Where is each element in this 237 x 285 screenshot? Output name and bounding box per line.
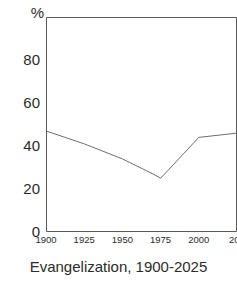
y-tick-label: 40 [4, 138, 40, 153]
x-tick-label: 1950 [108, 234, 136, 245]
x-tick-label: 1900 [32, 234, 60, 245]
plot-area [46, 17, 237, 232]
y-axis-unit-label: % [14, 4, 44, 21]
x-tick-label: 2000 [185, 234, 213, 245]
chart-figure: % 020406080 19001925195019752000202 Evan… [0, 0, 237, 285]
y-tick-label: 60 [4, 95, 40, 110]
plot-svg [46, 17, 237, 232]
x-tick-label: 202 [223, 234, 237, 245]
x-tick-label: 1975 [147, 234, 175, 245]
y-tick-label: 20 [4, 181, 40, 196]
axis-frame [47, 18, 237, 232]
chart-caption: Evangelization, 1900-2025 [0, 258, 237, 275]
x-tick-label: 1925 [70, 234, 98, 245]
data-series-line [46, 131, 237, 178]
y-tick-label: 80 [4, 52, 40, 67]
